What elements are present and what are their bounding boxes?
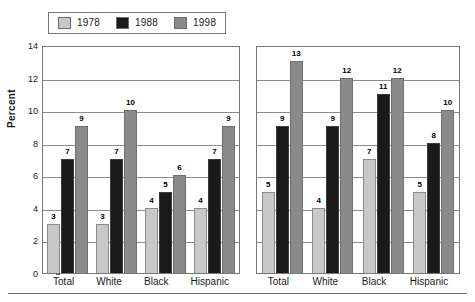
bar: 5 — [262, 192, 275, 273]
y-axis-tick-label: 10 — [28, 107, 38, 116]
bar: 5 — [159, 192, 172, 273]
bar-value-label: 3 — [100, 213, 104, 221]
bar-value-label: 9 — [226, 115, 230, 123]
bar: 13 — [290, 61, 303, 273]
bar: 9 — [326, 126, 339, 273]
legend-swatch-icon — [116, 17, 129, 29]
chart-panel-left: 3793710456479 — [42, 46, 240, 274]
bar-value-label: 8 — [432, 132, 436, 140]
bar-value-label: 4 — [317, 197, 321, 205]
bar-group: 71112 — [363, 47, 404, 273]
legend-label: 1998 — [193, 18, 216, 28]
y-axis-tick-label: 14 — [28, 42, 38, 51]
x-axis-labels-right: TotalWhiteBlackHispanic — [256, 276, 460, 292]
bar-group: 5810 — [413, 47, 454, 273]
bar-group: 5913 — [262, 47, 303, 273]
x-axis-category-label: White — [96, 276, 122, 287]
x-axis-category-label: Hispanic — [191, 276, 229, 287]
y-axis-tick-label: 12 — [28, 74, 38, 83]
x-axis-category-label: Total — [268, 276, 289, 287]
bar-value-label: 5 — [266, 181, 270, 189]
bar: 10 — [441, 110, 454, 273]
legend-swatch-icon — [58, 17, 71, 29]
bar: 9 — [75, 126, 88, 273]
bar-value-label: 9 — [79, 115, 83, 123]
bar: 7 — [61, 159, 74, 273]
chart-legend: 197819881998 — [48, 12, 226, 34]
y-axis-tick-label: 6 — [33, 172, 38, 181]
bar-value-label: 6 — [177, 164, 181, 172]
bar: 7 — [363, 159, 376, 273]
figure-container: 197819881998 Percent 02468101214 3793710… — [0, 0, 475, 302]
bar-value-label: 4 — [149, 197, 153, 205]
bar: 9 — [276, 126, 289, 273]
x-axis-category-label: Hispanic — [410, 276, 448, 287]
bar: 5 — [413, 192, 426, 273]
bar: 7 — [208, 159, 221, 273]
bar-value-label: 10 — [443, 99, 452, 107]
bar: 11 — [377, 94, 390, 273]
bar-value-label: 7 — [65, 148, 69, 156]
bar-value-label: 10 — [126, 99, 135, 107]
bar-value-label: 9 — [280, 115, 284, 123]
bar: 4 — [145, 208, 158, 273]
bar-value-label: 7 — [114, 148, 118, 156]
legend-entry: 1988 — [116, 17, 158, 29]
bar: 12 — [391, 78, 404, 273]
bar-value-label: 12 — [393, 67, 402, 75]
bar-group: 4912 — [312, 47, 353, 273]
y-axis-tick-label: 8 — [33, 139, 38, 148]
x-axis-category-label: Black — [144, 276, 168, 287]
y-axis-label: Percent — [6, 89, 17, 128]
y-axis-tick-label: 4 — [33, 204, 38, 213]
y-axis-ticks: 02468101214 — [18, 46, 38, 274]
bar-value-label: 11 — [379, 83, 387, 91]
bar: 3 — [96, 224, 109, 273]
bar-group: 456 — [145, 47, 186, 273]
bar-groups: 3793710456479 — [43, 47, 239, 273]
plot-area-left: 3793710456479 — [43, 47, 239, 273]
bar-value-label: 5 — [418, 181, 422, 189]
bar: 9 — [222, 126, 235, 273]
x-axis-labels-left: TotalWhiteBlackHispanic — [42, 276, 240, 292]
legend-entry: 1998 — [174, 17, 216, 29]
plot-area-right: 59134912711125810 — [257, 47, 459, 273]
bar: 3 — [47, 224, 60, 273]
bar: 7 — [110, 159, 123, 273]
bar-value-label: 13 — [292, 50, 301, 58]
bar-value-label: 7 — [212, 148, 216, 156]
y-axis-tick-label: 2 — [33, 237, 38, 246]
bar-value-label: 5 — [163, 181, 167, 189]
bar-group: 479 — [194, 47, 235, 273]
bar: 8 — [427, 143, 440, 273]
bar: 12 — [340, 78, 353, 273]
bar-value-label: 4 — [198, 197, 202, 205]
bar-value-label: 9 — [331, 115, 335, 123]
bar-value-label: 12 — [342, 67, 351, 75]
x-axis-category-label: Black — [362, 276, 386, 287]
x-axis-category-label: Total — [53, 276, 74, 287]
bar: 4 — [312, 208, 325, 273]
bar: 6 — [173, 175, 186, 273]
legend-swatch-icon — [174, 17, 187, 29]
y-axis-tick-label: 0 — [33, 270, 38, 279]
legend-label: 1978 — [77, 18, 100, 28]
bar-group: 3710 — [96, 47, 137, 273]
bar-group: 379 — [47, 47, 88, 273]
bar: 10 — [124, 110, 137, 273]
chart-panel-right: 59134912711125810 — [256, 46, 460, 274]
x-axis-category-label: White — [313, 276, 339, 287]
legend-label: 1988 — [135, 18, 158, 28]
bar-groups: 59134912711125810 — [257, 47, 459, 273]
bar-value-label: 7 — [367, 148, 371, 156]
bar-value-label: 3 — [51, 213, 55, 221]
bar: 4 — [194, 208, 207, 273]
footer-divider — [8, 293, 467, 294]
y-axis-tick-mark — [56, 274, 60, 275]
legend-entry: 1978 — [58, 17, 100, 29]
